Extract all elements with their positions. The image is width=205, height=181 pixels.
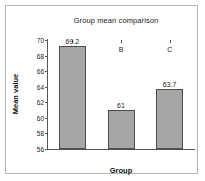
y-tick-label: 58 [37,130,44,137]
y-tick-label: 62 [37,99,44,106]
y-tick-label: 68 [37,52,44,59]
bar-value-label: 63.7 [163,81,177,88]
x-tick-label: C [167,46,172,53]
y-tick-label: 66 [37,68,44,75]
plot-area: 7068666462605856 ABC 69.26163.7 [48,40,194,149]
chart-title: Group mean comparison [36,16,196,25]
y-tick-mark [45,118,48,119]
y-tick-mark [45,87,48,88]
y-tick-label: 64 [37,83,44,90]
bar-value-label: 69.2 [66,38,80,45]
y-tick-label: 70 [37,37,44,44]
y-tick-label: 60 [37,114,44,121]
figure-frame: Group mean comparison Mean value 7068666… [5,5,198,174]
y-tick-mark [45,102,48,103]
y-tick-mark [45,56,48,57]
bar: 69.2 [59,46,86,149]
x-tick-label: B [119,46,124,53]
y-tick-label: 56 [37,146,44,153]
y-tick-mark [45,71,48,72]
y-tick-mark [45,40,48,41]
x-axis-line [47,149,195,150]
bar: 63.7 [156,89,183,149]
y-tick-mark [45,149,48,150]
y-axis-label: Mean value [11,74,20,114]
x-tick-mark [121,40,122,43]
x-tick-mark [170,40,171,43]
bar: 61 [108,110,135,149]
x-axis-label: Group [48,166,194,175]
bar-value-label: 61 [117,102,125,109]
y-tick-mark [45,133,48,134]
